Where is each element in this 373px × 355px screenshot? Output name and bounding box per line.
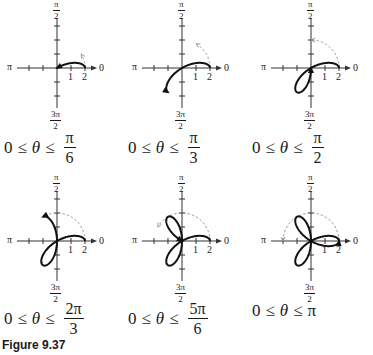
caption-upper-bound-fraction: π6 [64,130,76,166]
caption-theta: θ [32,309,40,329]
fraction-numerator: 3π [304,283,315,294]
fraction-denominator: 2 [308,184,313,194]
caption-upper-bound-fraction: 2π3 [64,301,84,337]
fraction-denominator: 2 [308,11,313,21]
fraction-denominator: 3 [70,319,78,337]
fraction-denominator: 3 [190,148,198,166]
caption-leq: ≤ [266,301,275,321]
polar-graph-panel-2: 0π12π23π20≤θ≤π3 [124,0,248,170]
fraction-numerator: 3π [175,110,186,121]
axis-label-pi: π [7,62,12,72]
tick-label-1: 1 [322,72,327,82]
caption-lower-bound: 0 [128,138,137,158]
theta-range-caption: 0≤θ≤2π3 [4,301,84,337]
axis-arrow-icon [345,66,351,71]
axis-label-3pi-over-2: 3π2 [304,110,315,131]
curve-direction-arrow-icon [162,87,170,93]
polar-graph-panel-5: 0π12π23π20≤θ≤5π6 [124,173,248,343]
fraction-denominator: 2 [54,11,59,21]
caption-leq: ≤ [18,138,27,158]
tick-label-2: 2 [82,245,87,255]
caption-leq: ≤ [293,138,302,158]
theta-range-caption: 0≤θ≤5π6 [128,301,208,337]
caption-theta: θ [280,301,288,321]
axis-arrow-icon [216,66,222,71]
axis-label-3pi-over-2: 3π2 [50,110,61,131]
fraction-numerator: 3π [304,110,315,121]
axis-label-pi: π [261,62,266,72]
theta-range-caption: 0≤θ≤π3 [128,130,200,166]
caption-leq: ≤ [169,309,178,329]
figure-label: Figure 9.37 [2,338,65,352]
theta-range-caption: 0≤θ≤π6 [4,130,76,166]
caption-upper-bound-fraction: 5π6 [188,301,208,337]
caption-lower-bound: 0 [252,301,261,321]
theta-range-caption: 0≤θ≤π [252,301,316,321]
axis-arrow-icon [91,66,97,71]
tick-label-2: 2 [82,72,87,82]
tick-label-1: 1 [68,72,73,82]
fraction-numerator: π [178,0,185,11]
caption-leq: ≤ [293,301,302,321]
tick-label-1: 1 [193,245,198,255]
fraction-numerator: π [307,173,314,184]
caption-leq: ≤ [142,138,151,158]
polar-graph-panel-3: 0π12π23π20≤θ≤π2 [248,0,372,170]
caption-lower-bound: 0 [128,309,137,329]
axis-label-pi: π [132,235,137,245]
axis-label-pi: π [261,235,266,245]
tick-label-1: 1 [322,245,327,255]
fraction-numerator: 3π [175,283,186,294]
tick-label-1: 1 [193,72,198,82]
polar-graph-panel-1: 0π12π23π20≤θ≤π6 [0,0,124,170]
fraction-numerator: π [188,130,200,148]
tick-label-2: 2 [336,72,341,82]
caption-upper-bound-fraction: π3 [188,130,200,166]
fraction-numerator: π [53,173,60,184]
caption-theta: θ [280,138,288,158]
theta-range-caption: 0≤θ≤π2 [252,130,324,166]
fraction-numerator: π [312,130,324,148]
axis-arrow-icon [216,239,222,244]
caption-leq: ≤ [45,138,54,158]
axis-label-0: 0 [99,236,104,246]
tick-label-2: 2 [336,245,341,255]
axis-label-pi-over-2: π2 [178,0,185,21]
caption-leq: ≤ [18,309,27,329]
tick-label-2: 2 [207,72,212,82]
caption-theta: θ [156,138,164,158]
caption-lower-bound: 0 [4,309,13,329]
axis-label-pi: π [132,62,137,72]
caption-upper-bound: π [308,301,317,321]
axis-label-3pi-over-2: 3π2 [175,110,186,131]
axis-label-pi: π [7,235,12,245]
fraction-numerator: π [307,0,314,11]
tick-label-2: 2 [207,245,212,255]
caption-lower-bound: 0 [4,138,13,158]
rose-curve [166,63,210,92]
fraction-denominator: 2 [179,184,184,194]
caption-theta: θ [156,309,164,329]
caption-leq: ≤ [45,309,54,329]
rose-curve [295,63,339,93]
axis-label-pi-over-2: π2 [307,0,314,21]
fraction-denominator: 6 [194,319,202,337]
curve-direction-arrow-icon [41,212,49,218]
polar-graph-panel-6: 0π12π23π20≤θ≤π [248,173,372,343]
fraction-numerator: 3π [50,283,61,294]
axis-label-0: 0 [353,236,358,246]
fraction-denominator: 2 [314,148,322,166]
caption-leq: ≤ [169,138,178,158]
tick-label-1: 1 [68,245,73,255]
axis-arrow-icon [345,239,351,244]
caption-leq: ≤ [142,309,151,329]
axis-label-0: 0 [224,236,229,246]
fraction-denominator: 6 [66,148,74,166]
fraction-numerator: 3π [50,110,61,121]
axis-label-0: 0 [224,63,229,73]
fraction-numerator: π [53,0,60,11]
caption-upper-bound-fraction: π2 [312,130,324,166]
polar-graph-panel-4: 0π12π23π20≤θ≤2π3 [0,173,124,343]
axis-label-pi-over-2: π2 [178,173,185,194]
fraction-numerator: 2π [64,301,84,319]
